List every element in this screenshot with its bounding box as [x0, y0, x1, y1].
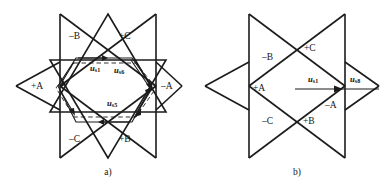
star-point-right-b2-b	[345, 86, 379, 110]
star-point-left-b2-b	[205, 86, 249, 110]
vector-label-us1-b: us1	[308, 74, 318, 85]
sector-label-plus-b-b: +B	[303, 116, 315, 126]
sector-label-plus-b-a: +B	[119, 134, 131, 144]
sector-label-minus-c-b: –C	[261, 116, 273, 126]
sector-label-minus-c-a: –C	[68, 134, 80, 144]
sector-label-minus-b-b: –B	[261, 52, 273, 62]
sector-label-plus-a-b: +A	[253, 83, 265, 93]
figure-container: –B +C +A –A –C +B us1 us6 us5 a) –B +C +…	[0, 0, 391, 186]
star-point-left-b	[205, 62, 249, 86]
sector-label-plus-c-b: +C	[304, 43, 316, 53]
sector-label-minus-a-b: –A	[324, 100, 337, 110]
diagram-b: –B +C +A –A –C +B us1 us8 b)	[205, 14, 379, 178]
vector-label-us6-a: us6	[114, 65, 124, 76]
vector-label-us8-b: us8	[350, 74, 360, 85]
vector-label-us1-a: us1	[90, 63, 100, 74]
caption-b: b)	[293, 167, 301, 178]
star-triangle-down-a	[50, 60, 166, 158]
figure-svg: –B +C +A –A –C +B us1 us6 us5 a) –B +C +…	[0, 0, 391, 186]
caption-a: a)	[104, 167, 111, 178]
vector-strokes-a	[131, 60, 153, 118]
vector-label-us5-a: us5	[107, 98, 117, 109]
sector-label-minus-a-a: –A	[160, 81, 173, 91]
sector-label-plus-a-a: +A	[31, 81, 43, 91]
diagram-a: –B +C +A –A –C +B us1 us6 us5 a)	[16, 14, 182, 178]
sector-label-plus-c-a: +C	[119, 31, 131, 41]
sector-label-minus-b-a: –B	[68, 31, 80, 41]
